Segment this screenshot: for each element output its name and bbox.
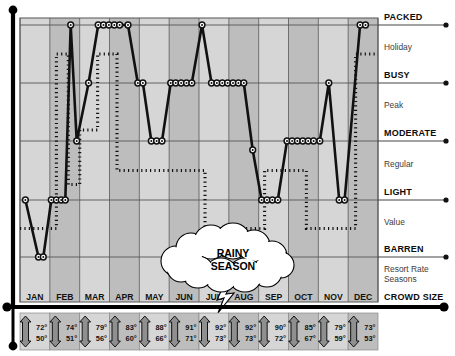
data-point-center <box>232 82 234 84</box>
month-label-jun: JUN <box>175 292 192 302</box>
data-point-center <box>243 82 245 84</box>
data-point-center <box>261 199 263 201</box>
data-point-center <box>150 140 152 142</box>
data-point-center <box>55 199 57 201</box>
y-axis-bottom-dot <box>9 342 18 351</box>
month-label-feb: FEB <box>56 292 73 302</box>
data-point-center <box>291 140 293 142</box>
month-column-feb <box>50 18 80 302</box>
legend-resort-rate-line1: Resort Rate <box>384 264 429 274</box>
temp-low-apr: 60° <box>126 334 137 343</box>
temp-low-mar: 56° <box>96 334 107 343</box>
chart-canvas: RAINYSEASONPACKEDHolidayBUSYPeakMODERATE… <box>0 0 455 356</box>
data-point-center <box>338 199 340 201</box>
data-point-center <box>161 140 163 142</box>
data-point-center <box>180 82 182 84</box>
cloud-text-line2: SEASON <box>211 260 255 272</box>
data-point-center <box>97 24 99 26</box>
data-point-center <box>296 140 298 142</box>
data-point-center <box>344 199 346 201</box>
temp-low-jan: 50° <box>36 334 47 343</box>
axis-label-regular: Regular <box>384 159 414 169</box>
data-point-center <box>142 82 144 84</box>
data-point-center <box>38 256 40 258</box>
temp-low-oct: 67° <box>305 334 316 343</box>
data-point-center <box>127 24 129 26</box>
temp-high-dec: 73° <box>364 323 375 332</box>
data-point-center <box>359 24 361 26</box>
month-label-nov: NOV <box>324 292 343 302</box>
data-point-center <box>277 199 279 201</box>
y-axis-top-dot <box>9 6 18 15</box>
month-column-dec <box>348 18 378 302</box>
month-label-dec: DEC <box>354 292 372 302</box>
month-label-jul: JUL <box>206 292 222 302</box>
data-point-center <box>252 149 254 151</box>
temp-high-aug: 92° <box>245 323 256 332</box>
legend-resort-rate-line2: Seasons <box>384 274 417 284</box>
data-point-center <box>113 24 115 26</box>
temp-low-sep: 72° <box>275 334 286 343</box>
x-axis-left-dot <box>2 302 11 311</box>
temp-high-feb: 74° <box>66 323 77 332</box>
temp-high-may: 88° <box>156 323 167 332</box>
seasonal-crowd-chart: RAINYSEASONPACKEDHolidayBUSYPeakMODERATE… <box>0 0 455 356</box>
data-point-center <box>365 24 367 26</box>
data-point-center <box>221 82 223 84</box>
data-point-center <box>70 24 72 26</box>
data-point-center <box>307 140 309 142</box>
data-point-center <box>216 82 218 84</box>
temp-low-jun: 71° <box>185 334 196 343</box>
leader-dot <box>443 197 448 202</box>
data-point-center <box>302 140 304 142</box>
temp-low-nov: 59° <box>335 334 346 343</box>
data-point-center <box>237 82 239 84</box>
data-point-center <box>103 24 105 26</box>
axis-label-value: Value <box>384 217 405 227</box>
data-point-center <box>319 140 321 142</box>
data-point-center <box>88 82 90 84</box>
data-point-center <box>137 82 139 84</box>
temp-low-dec: 53° <box>364 334 375 343</box>
axis-label-peak: Peak <box>384 100 404 110</box>
axis-label-light: LIGHT <box>384 187 412 197</box>
temp-high-jan: 72° <box>36 323 47 332</box>
data-point-center <box>328 82 330 84</box>
month-column-mar <box>80 18 110 302</box>
month-label-may: MAY <box>145 292 164 302</box>
legend-crowd-size: CROWD SIZE <box>384 292 444 302</box>
data-point-center <box>76 140 78 142</box>
month-label-sep: SEP <box>265 292 282 302</box>
data-point-center <box>119 24 121 26</box>
leader-dot <box>443 254 448 259</box>
data-point-center <box>170 82 172 84</box>
cloud-text-line1: RAINY <box>217 247 250 259</box>
data-point-center <box>211 82 213 84</box>
x-axis-right-dot <box>439 302 448 311</box>
data-point-center <box>313 140 315 142</box>
month-label-aug: AUG <box>234 292 253 302</box>
temp-high-jul: 92° <box>215 323 226 332</box>
right-axis-labels: PACKEDHolidayBUSYPeakMODERATERegularLIGH… <box>378 12 449 302</box>
data-point-center <box>42 256 44 258</box>
data-point-center <box>108 24 110 26</box>
axis-label-busy: BUSY <box>384 70 410 80</box>
data-point-center <box>64 199 66 201</box>
axis-label-moderate: MODERATE <box>384 128 436 138</box>
data-point-center <box>186 82 188 84</box>
month-column-nov <box>318 18 348 302</box>
data-point-center <box>191 82 193 84</box>
temp-high-nov: 79° <box>335 323 346 332</box>
temp-low-jul: 73° <box>215 334 226 343</box>
data-point-center <box>271 199 273 201</box>
axis-label-holiday: Holiday <box>384 42 413 52</box>
temp-high-sep: 90° <box>275 323 286 332</box>
data-point-center <box>156 140 158 142</box>
data-point-center <box>24 199 26 201</box>
temp-high-oct: 85° <box>305 323 316 332</box>
temp-high-jun: 91° <box>185 323 196 332</box>
temp-low-aug: 73° <box>245 334 256 343</box>
data-point-center <box>201 24 203 26</box>
data-point-center <box>227 82 229 84</box>
month-label-mar: MAR <box>85 292 105 302</box>
